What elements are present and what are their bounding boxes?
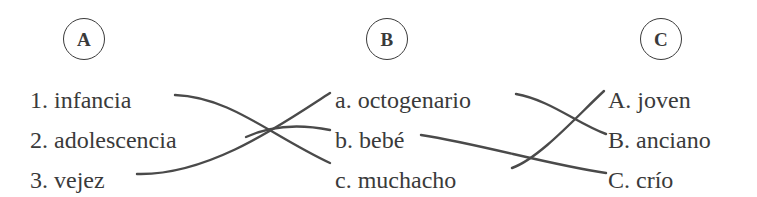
item-label: bebé (359, 127, 404, 153)
item-marker: 3. (30, 167, 48, 193)
item-marker: a. (335, 87, 352, 113)
list-item[interactable]: B.anciano (608, 120, 711, 160)
connector-c-to-A (512, 91, 604, 168)
connector-1-to-c (175, 95, 330, 163)
item-label: joven (637, 87, 690, 113)
column-a-items: 1.infancia 2.adolescencia 3.vejez (30, 80, 177, 197)
connector-2-to-b (246, 127, 330, 137)
item-marker: C. (608, 167, 630, 193)
column-badge-a-label: A (77, 30, 91, 49)
list-item[interactable]: 3.vejez (30, 160, 177, 197)
item-label: adolescencia (54, 127, 177, 153)
column-badge-c-label: C (654, 30, 668, 49)
item-marker: b. (335, 127, 353, 153)
item-label: infancia (54, 87, 131, 113)
item-marker: A. (608, 87, 631, 113)
item-label: muchacho (358, 167, 457, 193)
item-label: vejez (54, 167, 105, 193)
column-badge-b-label: B (381, 30, 394, 49)
list-item[interactable]: C.crío (608, 160, 711, 197)
list-item[interactable]: A.joven (608, 80, 711, 120)
column-c-items: A.joven B.anciano C.crío (608, 80, 711, 197)
item-marker: c. (335, 167, 352, 193)
list-item[interactable]: 2.adolescencia (30, 120, 177, 160)
connector-a-to-B (516, 94, 606, 134)
item-label: crío (636, 167, 673, 193)
item-label: anciano (636, 127, 711, 153)
item-marker: 2. (30, 127, 48, 153)
item-marker: B. (608, 127, 630, 153)
list-item[interactable]: b.bebé (335, 120, 471, 160)
item-label: octogenario (358, 87, 471, 113)
list-item[interactable]: 1.infancia (30, 80, 177, 120)
matching-exercise-canvas: A B C 1.infancia 2.adolescencia 3.vejez … (0, 0, 757, 197)
column-badge-c: C (640, 18, 682, 60)
column-b-items: a.octogenario b.bebé c.muchacho (335, 80, 471, 197)
list-item[interactable]: c.muchacho (335, 160, 471, 197)
column-badge-a: A (63, 18, 105, 60)
item-marker: 1. (30, 87, 48, 113)
list-item[interactable]: a.octogenario (335, 80, 471, 120)
column-badge-b: B (366, 18, 408, 60)
